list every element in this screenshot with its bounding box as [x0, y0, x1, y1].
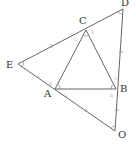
segment-ED — [18, 9, 123, 64]
angle-arc-O — [111, 126, 115, 128]
segment-DO — [115, 9, 123, 131]
segment-BC — [86, 30, 116, 89]
segment-CA — [55, 30, 86, 89]
circle-marker: ○ — [64, 92, 68, 97]
geometry-diagram: ○ △ △ ○ ○ △ D C E A B O — [0, 0, 136, 147]
triangle-marker: △ — [49, 80, 53, 85]
angle-arc-A — [58, 84, 60, 89]
circle-marker: ○ — [114, 75, 118, 80]
label-O: O — [118, 129, 126, 140]
label-B: B — [120, 83, 127, 94]
segment-OE — [18, 64, 115, 131]
triangle-marker: △ — [91, 29, 95, 34]
label-C: C — [79, 15, 87, 26]
label-A: A — [43, 88, 52, 99]
label-E: E — [6, 59, 13, 70]
diagram-svg: ○ △ △ ○ ○ △ D C E A B O — [0, 0, 136, 147]
triangle-marker: △ — [110, 92, 114, 97]
circle-marker: ○ — [74, 36, 78, 41]
angle-arc-C — [83, 35, 89, 36]
label-D: D — [121, 0, 129, 8]
angle-arc-D — [118, 12, 122, 14]
